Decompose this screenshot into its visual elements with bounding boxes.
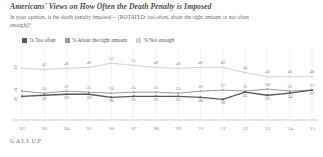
x-axis-tick-label: '12 xyxy=(242,126,248,131)
data-label: 25 xyxy=(131,85,136,90)
data-point xyxy=(177,68,179,70)
data-label: 48 xyxy=(64,61,69,66)
data-label: 40 xyxy=(310,69,315,74)
data-label: 49 xyxy=(154,60,159,65)
legend-swatch-not-enough xyxy=(136,38,141,43)
x-axis-tick-label: '08 xyxy=(153,126,159,131)
x-axis-tick-label: '14 xyxy=(287,126,293,131)
data-label: 27 xyxy=(310,91,315,96)
data-label: 26 xyxy=(64,84,69,89)
first-point-label: 26 xyxy=(13,87,18,92)
data-label: 21 xyxy=(131,97,136,102)
data-label: 49 xyxy=(220,60,225,65)
x-axis-tick-label: '04 xyxy=(64,126,70,131)
data-point xyxy=(133,64,135,66)
data-label: 24 xyxy=(287,94,292,99)
data-point xyxy=(110,62,112,64)
data-point xyxy=(244,72,246,74)
data-label: 49 xyxy=(87,60,92,65)
data-label: 23 xyxy=(87,95,92,100)
data-label: 23 xyxy=(64,95,69,100)
data-label: 24 xyxy=(176,86,181,91)
x-axis-tick-label: '03 xyxy=(41,126,47,131)
x-axis-tick-label: '15 xyxy=(309,126,315,131)
data-point xyxy=(266,88,268,90)
first-point-label: 48 xyxy=(13,64,18,69)
x-axis-tick-label: '06 xyxy=(108,126,114,131)
x-axis-tick-label: '02 xyxy=(19,126,25,131)
data-point xyxy=(289,76,291,78)
gallup-logo: GALLUP xyxy=(10,137,42,144)
data-point xyxy=(43,69,45,71)
data-point xyxy=(155,66,157,68)
legend-swatch-too-often xyxy=(22,38,27,43)
legend-swatch-about-right xyxy=(65,38,70,43)
data-point xyxy=(21,90,23,92)
x-axis-tick-label: '11 xyxy=(220,126,226,131)
data-label: 26 xyxy=(198,84,203,89)
data-label: 21 xyxy=(176,97,181,102)
data-label: 22 xyxy=(42,96,47,101)
data-label: 24 xyxy=(42,86,47,91)
data-label: 24 xyxy=(109,86,114,91)
data-label: 40 xyxy=(265,69,270,74)
x-axis-tick-label: '10 xyxy=(198,126,204,131)
legend-label-about-right: % About the right amount xyxy=(72,37,127,43)
data-point xyxy=(200,66,202,68)
data-label: 20 xyxy=(109,98,114,103)
data-point xyxy=(110,92,112,94)
chart-plot-area: 2223232021212120182522242724262524252524… xyxy=(0,48,323,133)
data-point xyxy=(43,92,45,94)
page-title: Americans' Views on How Often the Death … xyxy=(10,2,211,11)
data-point xyxy=(21,68,23,70)
data-label: 47 xyxy=(42,62,47,67)
data-label: 53 xyxy=(109,56,114,61)
data-label: 25 xyxy=(154,85,159,90)
x-axis-tick-label: '13 xyxy=(264,126,270,131)
data-point xyxy=(200,90,202,92)
data-label: 26 xyxy=(243,84,248,89)
data-point xyxy=(222,89,224,91)
data-label: 22 xyxy=(265,96,270,101)
data-label: 25 xyxy=(87,85,92,90)
x-axis-tick-label: '05 xyxy=(86,126,92,131)
chart-legend: % Too often % About the right amount % N… xyxy=(22,37,174,43)
data-label: 48 xyxy=(176,61,181,66)
legend-item-about-right: % About the right amount xyxy=(65,37,128,43)
data-label: 27 xyxy=(220,83,225,88)
data-label: 40 xyxy=(287,69,292,74)
data-point xyxy=(311,76,313,78)
data-label: 28 xyxy=(265,82,270,87)
data-label: 49 xyxy=(198,60,203,65)
series-line-1 xyxy=(22,89,312,93)
legend-label-not-enough: % Not enough xyxy=(144,37,175,43)
gallup-chart-figure: Americans' Views on How Often the Death … xyxy=(0,0,323,157)
data-point xyxy=(266,76,268,78)
data-point xyxy=(66,68,68,70)
data-label: 20 xyxy=(198,98,203,103)
data-label: 21 xyxy=(154,97,159,102)
data-point xyxy=(66,90,68,92)
data-point xyxy=(88,66,90,68)
legend-item-not-enough: % Not enough xyxy=(136,37,174,43)
line-chart-svg: 2223232021212120182522242724262524252524… xyxy=(0,48,323,133)
question-subtitle: In your opinion, is the death penalty im… xyxy=(10,13,260,29)
data-point xyxy=(222,66,224,68)
data-point xyxy=(88,91,90,93)
first-point-label: 21 xyxy=(13,96,18,101)
data-point xyxy=(21,95,23,97)
legend-item-too-often: % Too often xyxy=(22,37,56,43)
data-point xyxy=(133,91,135,93)
data-label: 18 xyxy=(220,100,225,105)
data-label: 27 xyxy=(310,83,315,88)
data-point xyxy=(155,91,157,93)
data-label: 51 xyxy=(131,58,136,63)
legend-label-too-often: % Too often xyxy=(30,37,56,43)
data-label: 26 xyxy=(287,84,292,89)
x-axis-tick-label: '07 xyxy=(131,126,137,131)
data-point xyxy=(177,92,179,94)
data-label: 25 xyxy=(243,93,248,98)
data-label: 44 xyxy=(243,65,248,70)
x-axis-tick-label: '09 xyxy=(175,126,181,131)
data-point xyxy=(289,90,291,92)
